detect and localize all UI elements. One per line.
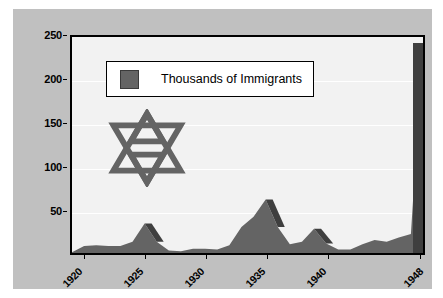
y-tick-label: 50 xyxy=(50,205,62,217)
y-axis: 250 200 150 100 50 xyxy=(26,35,67,255)
legend-swatch-immigrants xyxy=(120,70,139,89)
x-tick-mark xyxy=(145,255,146,259)
x-tick-mark xyxy=(84,255,85,259)
star-of-david-icon xyxy=(108,109,186,187)
y-tick-mark xyxy=(63,167,67,168)
y-tick-mark xyxy=(63,35,67,36)
y-tick-label: 100 xyxy=(44,161,62,173)
x-tick-label: 1925 xyxy=(121,265,145,289)
x-axis: 1920 1925 1930 1935 1940 1948 xyxy=(70,257,425,297)
chart-canvas: 250 200 150 100 50 xyxy=(13,9,432,289)
x-tick-mark xyxy=(420,255,421,259)
x-tick-label: 1920 xyxy=(60,265,84,289)
x-tick-label: 1930 xyxy=(182,265,206,289)
legend-label-immigrants: Thousands of Immigrants xyxy=(161,72,302,86)
plot-area: Thousands of Immigrants xyxy=(70,35,425,255)
series-bar-1948 xyxy=(413,43,423,253)
x-tick-label: 1935 xyxy=(243,265,267,289)
y-tick-label: 200 xyxy=(44,73,62,85)
star-of-david-svg xyxy=(108,109,186,187)
y-tick-mark xyxy=(63,79,67,80)
y-tick-label: 250 xyxy=(44,29,62,41)
x-tick-mark xyxy=(328,255,329,259)
chart-figure: 250 200 150 100 50 xyxy=(0,0,443,298)
x-tick-mark xyxy=(267,255,268,259)
y-tick-label: 150 xyxy=(44,117,62,129)
legend: Thousands of Immigrants xyxy=(106,61,314,97)
y-tick-mark xyxy=(63,211,67,212)
x-tick-label: 1948 xyxy=(401,265,425,289)
x-tick-label: 1940 xyxy=(304,265,328,289)
x-tick-mark xyxy=(206,255,207,259)
y-tick-mark xyxy=(63,123,67,124)
plot-inner: Thousands of Immigrants xyxy=(72,37,423,253)
